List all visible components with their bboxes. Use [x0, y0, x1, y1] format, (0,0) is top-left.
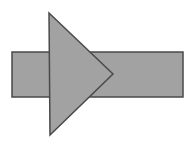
shapes-svg	[0, 0, 192, 148]
drawing-canvas	[0, 0, 192, 148]
